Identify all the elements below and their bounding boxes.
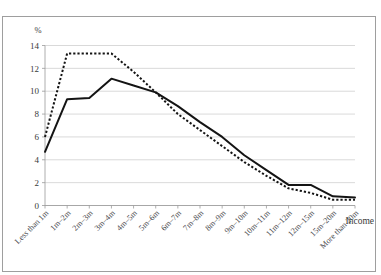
x-tick-label: 6m–7m — [159, 208, 184, 233]
y-tick-label: 0 — [35, 201, 40, 211]
y-axis-unit-label: % — [34, 25, 41, 35]
y-tick-label: 2 — [35, 178, 40, 188]
y-tick-label: 10 — [30, 86, 40, 96]
x-tick-label: 1m–2m — [48, 208, 73, 233]
x-tick-label: 2m–3m — [71, 208, 96, 233]
x-tick-label: Less than 1m — [13, 208, 51, 246]
data-series-group — [45, 54, 355, 200]
y-tick-label: 12 — [30, 64, 39, 74]
x-tick-label: 3m–4m — [93, 208, 118, 233]
y-tick-label: 4 — [35, 155, 40, 165]
x-axis-title: Income — [346, 216, 375, 226]
y-tick-label: 6 — [35, 132, 40, 142]
series-solid — [45, 79, 355, 198]
chart-svg: 02468101214 Less than 1m1m–2m2m–3m3m–4m4… — [0, 0, 381, 275]
series-dotted — [45, 54, 355, 200]
x-tick-label: 7m–8m — [181, 208, 206, 233]
y-tick-label: 8 — [35, 109, 40, 119]
y-tick-label: 14 — [30, 41, 40, 51]
axis-lines — [45, 46, 355, 206]
x-tick-label: 4m–5m — [115, 208, 140, 233]
gridlines — [42, 46, 355, 206]
x-tick-label: 5m–6m — [137, 208, 162, 233]
line-chart: 02468101214 Less than 1m1m–2m2m–3m3m–4m4… — [0, 0, 381, 275]
x-axis-tick-labels: Less than 1m1m–2m2m–3m3m–4m4m–5m5m–6m6m–… — [13, 206, 361, 251]
y-axis-tick-labels: 02468101214 — [30, 41, 40, 211]
